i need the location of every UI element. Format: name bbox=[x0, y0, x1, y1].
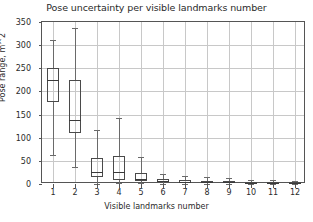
chart-figure: Pose uncertainty per visible landmarks n… bbox=[0, 0, 313, 222]
x-axis-tick-label: 12 bbox=[290, 188, 300, 197]
x-axis-tick-label: 11 bbox=[268, 188, 278, 197]
x-axis-tick-label: 2 bbox=[72, 188, 77, 197]
y-axis-tick-label: 350 bbox=[16, 18, 31, 27]
x-axis-tick-mark bbox=[119, 184, 120, 188]
y-axis-tick-mark bbox=[39, 115, 43, 116]
y-axis-tick-mark bbox=[39, 161, 43, 162]
y-axis-tick-mark bbox=[39, 138, 43, 139]
median-line bbox=[223, 182, 234, 183]
x-axis-tick-label: 6 bbox=[160, 188, 165, 197]
x-axis-tick-label: 8 bbox=[204, 188, 209, 197]
y-axis-tick-mark bbox=[39, 184, 43, 185]
x-axis-tick-mark bbox=[75, 184, 76, 188]
x-axis-tick-mark bbox=[185, 184, 186, 188]
y-axis-tick-label: 150 bbox=[16, 110, 31, 119]
x-axis-tick-mark bbox=[295, 184, 296, 188]
x-axis-tick-label: 5 bbox=[138, 188, 143, 197]
x-axis-tick-mark bbox=[229, 184, 230, 188]
y-axis-tick-label: 250 bbox=[16, 64, 31, 73]
y-axis-tick-mark bbox=[39, 22, 43, 23]
x-axis-tick-label: 10 bbox=[246, 188, 256, 197]
y-axis-tick-label: 300 bbox=[16, 41, 31, 50]
x-axis-label: Visible landmarks number bbox=[0, 202, 313, 211]
x-axis-tick-mark bbox=[53, 184, 54, 188]
x-axis-tick-mark bbox=[163, 184, 164, 188]
y-axis-tick-mark bbox=[39, 68, 43, 69]
x-axis-tick-label: 1 bbox=[50, 188, 55, 197]
y-axis-tick-label: 50 bbox=[21, 156, 31, 165]
boxplot-box bbox=[42, 22, 306, 182]
x-axis-tick-mark bbox=[251, 184, 252, 188]
y-axis-tick-label: 200 bbox=[16, 87, 31, 96]
y-axis-tick-mark bbox=[39, 91, 43, 92]
x-axis-tick-mark bbox=[273, 184, 274, 188]
x-axis-tick-label: 9 bbox=[226, 188, 231, 197]
x-axis-tick-label: 3 bbox=[94, 188, 99, 197]
x-axis-tick-mark bbox=[207, 184, 208, 188]
x-axis-tick-label: 7 bbox=[182, 188, 187, 197]
y-axis-label: Pose range, m^2 bbox=[0, 33, 7, 102]
x-axis-tick-mark bbox=[141, 184, 142, 188]
y-axis-tick-label: 0 bbox=[26, 180, 31, 189]
x-axis-tick-label: 4 bbox=[116, 188, 121, 197]
y-axis-tick-label: 100 bbox=[16, 133, 31, 142]
chart-title: Pose uncertainty per visible landmarks n… bbox=[0, 2, 313, 13]
y-axis-tick-mark bbox=[39, 45, 43, 46]
boxplot-series bbox=[42, 22, 304, 182]
plot-area: 050100150200250300350123456789101112 bbox=[41, 21, 305, 183]
x-axis-tick-mark bbox=[97, 184, 98, 188]
